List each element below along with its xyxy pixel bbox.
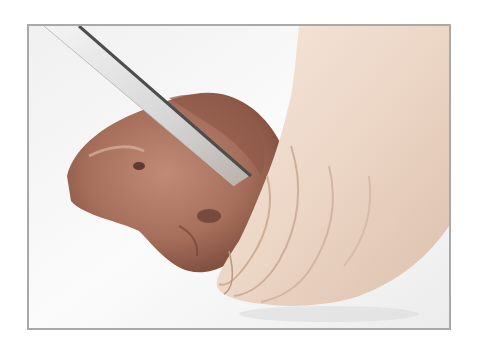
shadow	[239, 306, 419, 322]
photo	[29, 26, 449, 328]
photo-frame	[27, 24, 451, 330]
